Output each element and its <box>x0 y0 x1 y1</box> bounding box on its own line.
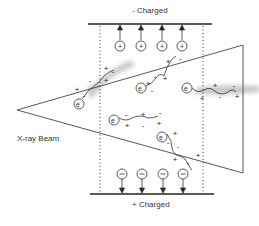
svg-text:-: - <box>151 86 154 95</box>
svg-text:-: - <box>167 138 170 147</box>
negative-ion <box>158 169 168 193</box>
positive-ion: + <box>136 25 146 51</box>
svg-text:+: + <box>139 43 143 50</box>
svg-text:+: + <box>180 43 184 50</box>
svg-text:e: e <box>111 117 115 124</box>
svg-text:-: - <box>159 108 162 117</box>
ionization-trails <box>88 60 259 100</box>
svg-text:+: + <box>104 76 109 85</box>
svg-text:-: - <box>142 121 145 130</box>
svg-text:+: + <box>196 151 201 160</box>
svg-text:-: - <box>177 142 180 151</box>
svg-text:e: e <box>76 101 80 108</box>
svg-text:+: + <box>75 85 80 94</box>
svg-text:+: + <box>118 43 122 50</box>
negative-ion <box>117 169 127 193</box>
svg-text:+: + <box>213 81 218 90</box>
svg-text:-: - <box>154 72 157 81</box>
svg-text:+: + <box>157 119 162 128</box>
positive-ion: + <box>177 25 187 51</box>
svg-text:-: - <box>233 81 236 90</box>
positive-ions: + + + + <box>115 25 187 51</box>
svg-text:-: - <box>125 110 128 119</box>
svg-text:-: - <box>219 92 222 101</box>
svg-text:+: + <box>125 121 130 130</box>
svg-text:-: - <box>187 158 190 167</box>
svg-text:-: - <box>112 67 115 76</box>
svg-text:e: e <box>159 134 163 141</box>
negative-ion <box>137 169 147 193</box>
svg-text:+: + <box>104 64 109 73</box>
svg-text:-: - <box>83 91 86 100</box>
positive-ion: + <box>157 25 167 51</box>
electron-4: e <box>109 115 158 125</box>
svg-text:-: - <box>89 76 92 85</box>
svg-text:+: + <box>235 92 240 101</box>
svg-text:+: + <box>173 155 178 164</box>
negative-ions <box>117 169 188 193</box>
negative-ion <box>178 169 188 193</box>
svg-text:+: + <box>160 43 164 50</box>
charge-markers: +--+ +- +--+ +- +-+-+ -+-+ -+ +--+ +- <box>75 54 240 167</box>
ionization-chamber-diagram: + + + + e e e e <box>0 0 259 226</box>
svg-text:+: + <box>166 57 171 66</box>
svg-text:+: + <box>141 110 146 119</box>
svg-text:e: e <box>184 85 188 92</box>
svg-text:-: - <box>179 54 182 63</box>
svg-text:+: + <box>163 74 168 83</box>
svg-text:e: e <box>138 85 142 92</box>
svg-text:+: + <box>200 94 205 103</box>
svg-text:+: + <box>173 129 178 138</box>
positive-ion: + <box>115 25 125 51</box>
